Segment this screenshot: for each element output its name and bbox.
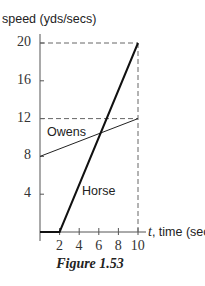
x-axis-label: t, time (sec) bbox=[148, 224, 205, 240]
ticks bbox=[40, 43, 138, 235]
chart: speed (yds/secs) t, time (sec) Owens Hor… bbox=[0, 0, 205, 286]
x-tick-label: 10 bbox=[131, 238, 145, 254]
x-tick-label: 4 bbox=[76, 238, 83, 254]
series-label-horse: Horse bbox=[82, 184, 115, 198]
x-axis-label-text: , time (sec) bbox=[152, 225, 205, 239]
y-tick-label: 12 bbox=[17, 110, 31, 126]
series-label-owens: Owens bbox=[47, 125, 86, 139]
x-tick-label: 2 bbox=[56, 238, 63, 254]
figure-caption: Figure 1.53 bbox=[0, 256, 180, 272]
y-tick-label: 16 bbox=[17, 72, 31, 88]
y-tick-label: 20 bbox=[17, 34, 31, 50]
y-tick-label: 4 bbox=[24, 185, 31, 201]
y-tick-label: 8 bbox=[24, 147, 31, 163]
x-tick-label: 8 bbox=[115, 238, 122, 254]
y-axis-label: speed (yds/secs) bbox=[2, 12, 96, 26]
x-tick-label: 6 bbox=[95, 238, 102, 254]
